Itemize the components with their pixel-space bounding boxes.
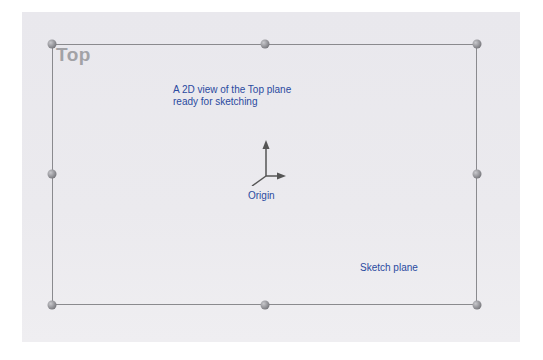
plane-description-annotation: A 2D view of the Top plane ready for ske… [173, 84, 291, 108]
origin-label: Origin [248, 190, 275, 202]
handle-bottom-right[interactable] [473, 301, 482, 310]
plane-label: Top [56, 44, 91, 66]
handle-top-mid[interactable] [261, 40, 270, 49]
handle-top-left[interactable] [48, 40, 57, 49]
handle-top-right[interactable] [473, 40, 482, 49]
handle-right-mid[interactable] [473, 170, 482, 179]
description-line-2: ready for sketching [173, 96, 291, 108]
sketch-plane-label: Sketch plane [360, 262, 418, 274]
handle-left-mid[interactable] [48, 170, 57, 179]
description-line-1: A 2D view of the Top plane [173, 84, 291, 96]
handle-bottom-left[interactable] [48, 301, 57, 310]
origin-axes-icon[interactable] [246, 136, 286, 186]
handle-bottom-mid[interactable] [261, 301, 270, 310]
